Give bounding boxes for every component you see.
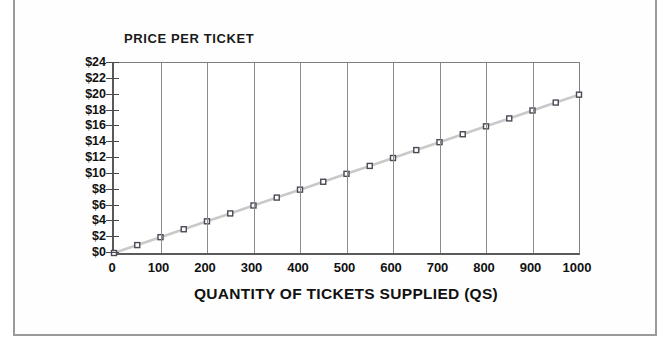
y-axis-labels: $0$2$4$6$8$10$12$14$16$18$20$22$24 (58, 62, 106, 255)
y-axis-tick (106, 157, 119, 158)
y-axis-tick (106, 173, 119, 174)
y-axis-tick-label: $10 (85, 167, 106, 180)
y-axis-tick-label: $6 (92, 199, 106, 212)
supply-curve-series (114, 63, 591, 265)
x-axis-title: QUANTITY OF TICKETS SUPPLIED (QS) (112, 285, 580, 303)
x-axis-tick-label: 0 (108, 261, 115, 274)
y-axis-tick (106, 62, 119, 63)
data-point-marker (507, 116, 512, 121)
data-point-marker (553, 100, 558, 105)
y-axis-tick-label: $4 (92, 214, 106, 227)
data-point-marker (460, 132, 465, 137)
y-axis-tick (106, 236, 119, 237)
chart-title: PRICE PER TICKET (124, 31, 254, 46)
gridline-vertical (300, 63, 301, 253)
data-point-marker (228, 211, 233, 216)
y-axis-tick (106, 78, 119, 79)
y-axis-tick-label: $16 (85, 119, 106, 132)
y-axis-tick-label: $0 (92, 246, 106, 259)
gridline-vertical (393, 63, 394, 253)
x-axis-tick-label: 700 (427, 261, 449, 274)
y-axis-tick-label: $14 (85, 135, 106, 148)
y-axis-tick-label: $8 (92, 183, 106, 196)
y-axis-tick (106, 189, 119, 190)
data-point-marker (321, 179, 326, 184)
data-point-marker (367, 163, 372, 168)
x-axis-tick-label: 600 (380, 261, 402, 274)
y-axis-tick (106, 141, 119, 142)
y-axis-tick (106, 220, 119, 221)
y-axis-tick-label: $20 (85, 88, 106, 101)
gridline-vertical (254, 63, 255, 253)
gridline-vertical (579, 63, 580, 253)
x-axis-tick-label: 200 (194, 261, 216, 274)
gridline-vertical (440, 63, 441, 253)
y-axis-tick (106, 205, 119, 206)
x-axis-tick-label: 400 (287, 261, 309, 274)
y-axis-tick-label: $22 (85, 72, 106, 85)
y-axis-tick (106, 252, 119, 253)
data-point-marker (414, 148, 419, 153)
y-axis-tick (106, 125, 119, 126)
x-axis-tick-label: 900 (520, 261, 542, 274)
data-point-marker (274, 195, 279, 200)
x-axis-tick-label: 300 (241, 261, 263, 274)
y-axis-tick-label: $2 (92, 230, 106, 243)
gridline-vertical (347, 63, 348, 253)
plot-area (112, 62, 580, 255)
y-axis-tick (106, 94, 119, 95)
gridline-vertical (486, 63, 487, 253)
gridline-vertical (533, 63, 534, 253)
x-axis-tick-label: 100 (148, 261, 170, 274)
y-axis-tick (106, 110, 119, 111)
gridline-vertical (207, 63, 208, 253)
y-axis-tick-label: $12 (85, 151, 106, 164)
footer-caption (0, 338, 672, 351)
plot-inner (114, 63, 579, 253)
chart-page: PRICE PER TICKET $0$2$4$6$8$10$12$14$16$… (0, 0, 672, 351)
y-axis-tick-label: $24 (85, 56, 106, 69)
x-axis-tick-label: 500 (334, 261, 356, 274)
x-axis-tick-label: 800 (473, 261, 495, 274)
y-axis-tick-label: $18 (85, 104, 106, 117)
x-axis-labels: 01002003004005006007008009001000 (112, 261, 580, 279)
data-point-marker (135, 243, 140, 248)
x-axis-tick-label: 1000 (563, 261, 592, 274)
data-point-marker (181, 227, 186, 232)
gridline-vertical (161, 63, 162, 253)
